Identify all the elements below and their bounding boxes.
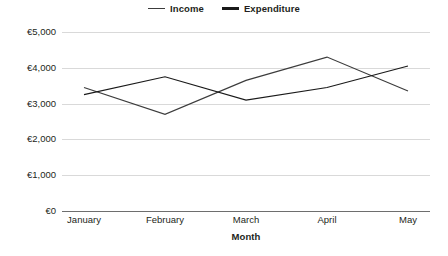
legend-line-icon-expenditure <box>222 7 239 10</box>
x-axis-labels: JanuaryFebruaryMarchAprilMay <box>62 215 430 229</box>
legend-item-expenditure[interactable]: Expenditure <box>222 3 300 14</box>
series-lines <box>62 32 430 211</box>
y-axis-tick-label: €2,000 <box>4 135 56 145</box>
y-axis-tick-label: €3,000 <box>4 99 56 109</box>
x-axis-tick-label: February <box>146 215 184 225</box>
legend-item-income[interactable]: Income <box>148 3 204 14</box>
y-axis-tick-label: €0 <box>4 206 56 216</box>
chart-legend: Income Expenditure <box>0 3 448 14</box>
y-axis-tick-label: €1,000 <box>4 170 56 180</box>
legend-label-income: Income <box>170 3 204 14</box>
x-axis-line <box>62 211 430 212</box>
x-axis-tick-label: March <box>233 215 259 225</box>
x-axis-tick-label: April <box>317 215 336 225</box>
x-axis-tick-label: January <box>67 215 101 225</box>
x-axis-tick-label: May <box>399 215 417 225</box>
x-axis-title: Month <box>62 231 430 242</box>
legend-label-expenditure: Expenditure <box>244 3 300 14</box>
y-axis-labels: €0€1,000€2,000€3,000€4,000€5,000 <box>0 32 56 211</box>
series-line-income <box>84 57 408 114</box>
y-axis-tick-label: €4,000 <box>4 63 56 73</box>
line-chart: Income Expenditure €0€1,000€2,000€3,000€… <box>0 0 448 256</box>
plot-area <box>62 32 430 211</box>
y-axis-tick-label: €5,000 <box>4 27 56 37</box>
legend-line-icon-income <box>148 8 165 9</box>
